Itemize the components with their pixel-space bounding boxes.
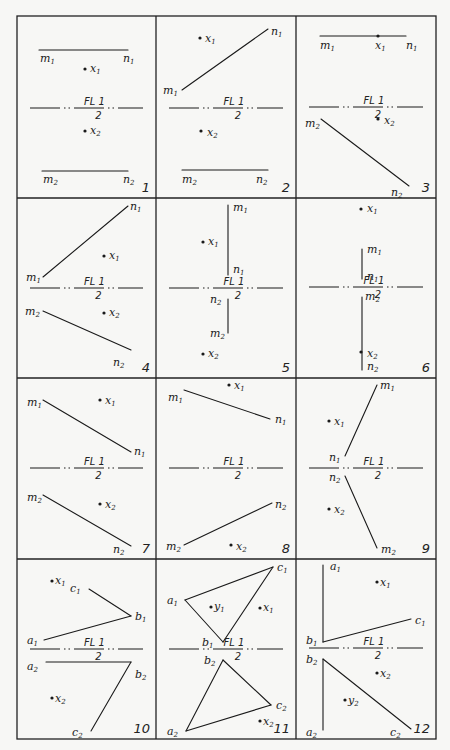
- label-a1: a1: [167, 594, 178, 608]
- panel-4: FL 12n1x1m1m2x2n24: [25, 200, 150, 375]
- label-x1: x1: [334, 415, 345, 429]
- panel-number: 9: [422, 541, 430, 556]
- label-n2: n2: [367, 360, 379, 374]
- panel-6: FL 12x1m1n1m2x2n26: [309, 202, 430, 375]
- label-x2: x2: [105, 498, 116, 512]
- line-segment: [182, 29, 268, 90]
- label-m2: m2: [27, 491, 42, 505]
- label-b1: b1: [202, 636, 214, 650]
- label-m1: m1: [320, 39, 335, 53]
- label-x2: x2: [384, 114, 395, 128]
- label-y1: y1: [213, 600, 225, 614]
- point-x1: [201, 240, 204, 243]
- label-c1: c1: [70, 582, 81, 596]
- panel-8: FL 12x1m1n1n2m2x28: [166, 379, 290, 556]
- panel-number: 4: [142, 360, 150, 375]
- label-n1: n1: [123, 52, 135, 66]
- point-x1: [258, 606, 261, 609]
- label-x2: x2: [334, 503, 345, 517]
- label-m1: m1: [168, 391, 183, 405]
- fold-line-label-sub: 2: [235, 651, 241, 662]
- point-x1: [227, 383, 230, 386]
- label-n2: n2: [329, 471, 341, 485]
- label-x1: x1: [375, 39, 386, 53]
- label-n2: n2: [210, 293, 222, 307]
- panel-7: FL 12m1x1n1m2x2n27: [27, 394, 151, 557]
- label-x1: x1: [109, 249, 120, 263]
- panel-5: FL 12m1x1n1n2m2x25: [169, 201, 290, 375]
- label-c1: c1: [277, 561, 288, 575]
- label-x2: x2: [367, 347, 378, 361]
- label-m1: m1: [26, 271, 41, 285]
- label-m1: m1: [367, 243, 382, 257]
- label-a2: a2: [167, 725, 179, 739]
- label-a2: a2: [27, 660, 39, 674]
- panel-number: 10: [133, 721, 150, 736]
- label-c1: c1: [415, 614, 426, 628]
- label-x2: x2: [55, 692, 66, 706]
- label-m1: m1: [233, 201, 248, 215]
- label-x1: x1: [263, 601, 274, 615]
- line-segment: [185, 567, 273, 600]
- label-c2: c2: [390, 726, 401, 740]
- fold-line-label-sub: 2: [95, 651, 101, 662]
- panel-number: 12: [413, 721, 430, 736]
- fold-line-label-sub: 2: [235, 290, 241, 301]
- panel-number: 2: [282, 180, 290, 195]
- panel-9: FL 12m1x1n1n2x2m29: [309, 379, 430, 557]
- panel-number: 8: [282, 541, 290, 556]
- label-n2: n2: [275, 498, 287, 512]
- panel-number: 1: [142, 180, 150, 195]
- label-m1: m1: [40, 52, 55, 66]
- line-segment: [345, 476, 377, 548]
- descriptive-geometry-figure: FL 12m1n1x1x2m2n21FL 12x1n1m1x2m2n22FL 1…: [0, 0, 450, 750]
- point-x1: [376, 34, 379, 37]
- point-x1: [83, 67, 86, 70]
- label-n1: n1: [367, 270, 379, 284]
- point-x2: [201, 352, 204, 355]
- point-x2: [359, 350, 362, 353]
- fold-line-label: FL 1: [224, 456, 245, 467]
- fold-line-label: FL 1: [224, 96, 245, 107]
- fold-line-label: FL 1: [364, 456, 385, 467]
- label-n2: n2: [256, 173, 268, 187]
- line-segment: [89, 589, 131, 616]
- label-x2: x2: [207, 126, 218, 140]
- point-x1: [102, 254, 105, 257]
- label-a1: a1: [330, 560, 341, 574]
- panel-number: 11: [273, 721, 290, 736]
- label-m2: m2: [25, 305, 40, 319]
- line-segment: [186, 705, 271, 731]
- label-b2: b2: [306, 653, 318, 667]
- fold-line-label: FL 1: [84, 276, 105, 287]
- fold-line-label: FL 1: [224, 276, 245, 287]
- label-m2: m2: [381, 543, 396, 557]
- line-segment: [184, 390, 270, 419]
- label-n1: n1: [134, 445, 146, 459]
- point-y2: [343, 698, 346, 701]
- point-x2: [102, 311, 105, 314]
- label-m2: m2: [305, 117, 320, 131]
- point-x2: [229, 543, 232, 546]
- label-m1: m1: [27, 396, 42, 410]
- line-segment: [91, 662, 131, 731]
- point-x2: [327, 507, 330, 510]
- label-n1: n1: [329, 451, 341, 465]
- panel-10: FL 12x1c1b1a1a2b2x2c210: [27, 574, 150, 740]
- label-x1: x1: [105, 394, 116, 408]
- line-segment: [186, 660, 223, 731]
- point-x1: [375, 580, 378, 583]
- fold-line-label: FL 1: [84, 637, 105, 648]
- point-x1: [359, 207, 362, 210]
- line-segment: [223, 660, 271, 705]
- point-x2: [258, 719, 261, 722]
- point-x2: [199, 129, 202, 132]
- label-m2: m2: [43, 173, 58, 187]
- label-n2: n2: [391, 186, 403, 200]
- panels: FL 12m1n1x1x2m2n21FL 12x1n1m1x2m2n22FL 1…: [25, 25, 430, 740]
- point-x2: [375, 671, 378, 674]
- label-c2: c2: [72, 726, 83, 740]
- label-n2: n2: [123, 173, 135, 187]
- panel-number: 5: [282, 360, 290, 375]
- label-n1: n1: [406, 39, 418, 53]
